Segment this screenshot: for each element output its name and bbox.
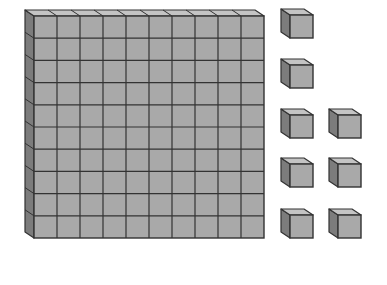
unit-cube [281, 158, 313, 187]
unit-cube [281, 109, 313, 138]
cube-front-face [290, 215, 313, 238]
cube-front-face [290, 115, 313, 138]
cube-front-face [290, 15, 313, 38]
unit-cube [281, 209, 313, 238]
unit-cube [281, 59, 313, 88]
cube-front-face [338, 115, 361, 138]
unit-cube [329, 109, 361, 138]
cube-front-face [338, 164, 361, 187]
cube-front-face [338, 215, 361, 238]
cube-front-face [290, 164, 313, 187]
base-ten-blocks-diagram [0, 0, 387, 285]
unit-cubes [281, 9, 361, 238]
hundred-flat-body [25, 10, 264, 238]
unit-cube [281, 9, 313, 38]
unit-cube [329, 158, 361, 187]
cube-front-face [290, 65, 313, 88]
hundred-flat [25, 10, 264, 238]
unit-cube [329, 209, 361, 238]
